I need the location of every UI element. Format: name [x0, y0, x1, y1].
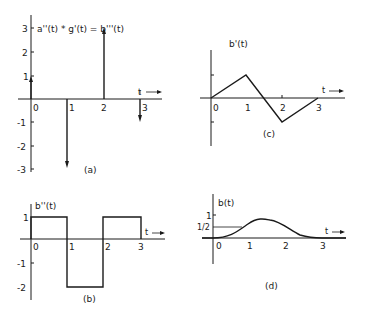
xtick-2: 2	[101, 103, 107, 113]
xtick-3: 3	[138, 242, 144, 252]
xtick-2: 2	[105, 242, 111, 252]
xtick-0: 0	[213, 103, 219, 113]
b-double-prime-curve	[31, 217, 141, 287]
ytick-1: 1	[206, 211, 212, 221]
ytick-2: 2	[22, 48, 28, 58]
ytick-neg1: -1	[17, 118, 26, 128]
figure-canvas: 3 2 1 -1 -2 -3 0 1 2 3 t a''(t) * g'(t) …	[0, 0, 365, 317]
xtick-3: 3	[142, 103, 148, 113]
ytick-half: 1/2	[197, 223, 210, 232]
xtick-1: 1	[69, 242, 75, 252]
xtick-1: 1	[69, 103, 75, 113]
panel-a-caption: (a)	[84, 165, 97, 175]
xtick-0: 0	[33, 242, 39, 252]
x-label-t: t	[325, 227, 328, 236]
panel-b: b''(t) 1 -1 -2 0 1 2 3 t (b)	[17, 201, 165, 304]
ytick-neg3: -3	[17, 165, 26, 175]
xtick-0: 0	[216, 241, 222, 251]
xtick-1: 1	[245, 103, 251, 113]
x-label-t: t	[138, 88, 141, 97]
panel-c: b'(t) 0 1 2 3 t (c)	[200, 39, 345, 146]
x-label-t: t	[322, 86, 325, 95]
panel-d-caption: (d)	[265, 281, 278, 291]
ytick-neg2: -2	[17, 283, 26, 293]
panel-a: 3 2 1 -1 -2 -3 0 1 2 3 t a''(t) * g'(t) …	[17, 15, 162, 175]
ytick-neg2: -2	[17, 142, 26, 152]
panel-b-title: b''(t)	[35, 201, 56, 211]
ytick-1: 1	[23, 213, 29, 223]
panel-c-caption: (c)	[263, 129, 275, 139]
xtick-2: 2	[283, 241, 289, 251]
xtick-1: 1	[247, 241, 253, 251]
panel-a-title: a''(t) * g'(t) = b'''(t)	[37, 24, 124, 34]
panel-b-caption: (b)	[83, 294, 96, 304]
panel-c-title: b'(t)	[229, 39, 248, 49]
ytick-neg1: -1	[17, 259, 26, 269]
panel-d-title: b(t)	[218, 198, 234, 208]
ytick-3: 3	[22, 24, 28, 34]
panel-d: b(t) 1 1/2 0 1 2 3 t (d)	[197, 194, 346, 291]
xtick-3: 3	[320, 241, 326, 251]
xtick-3: 3	[316, 103, 322, 113]
xtick-2: 2	[280, 103, 286, 113]
xtick-0: 0	[33, 103, 39, 113]
ytick-1: 1	[23, 72, 29, 82]
x-label-t: t	[145, 228, 148, 237]
